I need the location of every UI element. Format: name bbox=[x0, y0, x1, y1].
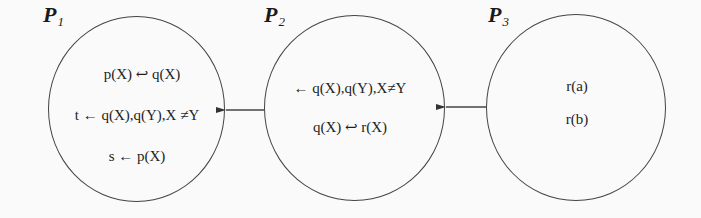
node-p2-circle bbox=[264, 15, 445, 201]
node-p1-rule: t ← q(X),q(Y),X ≠Y bbox=[75, 106, 199, 124]
node-p2-rule: q(X) ↩ r(X) bbox=[313, 118, 387, 136]
node-p2-rule: ← q(X),q(Y),X≠Y bbox=[294, 79, 407, 97]
node-p1-rule: p(X) ↩ q(X) bbox=[104, 65, 181, 83]
node-p3-rule: r(a) bbox=[566, 77, 588, 95]
node-p2-label-sub: 2 bbox=[278, 14, 285, 29]
node-p3-label: P3 bbox=[488, 4, 509, 33]
node-p3-label-sub: 3 bbox=[502, 14, 509, 29]
node-p1-label: P1 bbox=[43, 4, 64, 33]
node-p1-label-sub: 1 bbox=[57, 14, 64, 29]
node-p2-label-main: P bbox=[264, 2, 277, 27]
node-p1-label-main: P bbox=[43, 2, 56, 27]
node-p2-label: P2 bbox=[264, 4, 285, 33]
node-p3-circle bbox=[486, 14, 666, 201]
node-p1-rule: s ← p(X) bbox=[109, 147, 166, 165]
node-p3-rule: r(b) bbox=[566, 110, 589, 128]
node-p3-label-main: P bbox=[488, 2, 501, 27]
diagram-canvas: P1 p(X) ↩ q(X) t ← q(X),q(Y),X ≠Y s ← p(… bbox=[0, 0, 701, 218]
